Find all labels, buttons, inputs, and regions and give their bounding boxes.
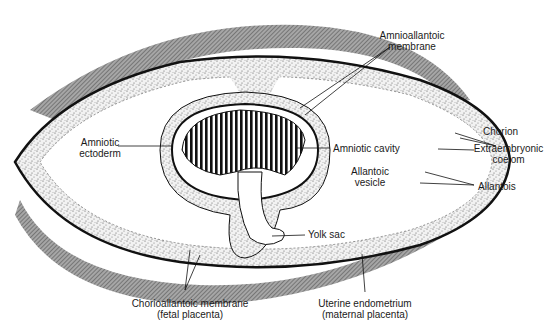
embryo-placenta-illustration (0, 0, 547, 328)
label-uterine-endometrium: Uterine endometrium (maternal placenta) (315, 298, 415, 320)
label-allantois: Allantois (478, 181, 516, 192)
label-yolk-sac: Yolk sac (308, 229, 345, 240)
diagram-canvas: Amnioallantoic membrane Chorion Extraemb… (0, 0, 547, 328)
label-amniotic-ectoderm: Amniotic ectoderm (78, 137, 122, 159)
label-amnioallantoic-membrane: Amnioallantoic membrane (372, 30, 452, 52)
label-chorioallantoic-membrane: Chorioallantoic membrane (fetal placenta… (130, 298, 250, 320)
label-allantoic-vesicle: Allantoic vesicle (340, 166, 400, 188)
label-amniotic-cavity: Amniotic cavity (333, 143, 400, 154)
label-extraembryonic-coelom: Extraembryonic coelom (470, 143, 547, 165)
label-chorion: Chorion (483, 126, 518, 137)
